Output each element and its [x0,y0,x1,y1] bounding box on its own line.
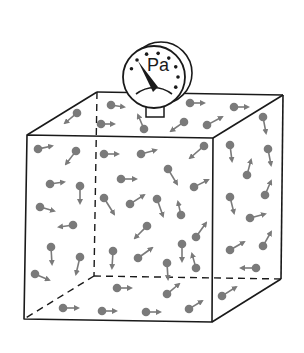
particle-dot [177,211,186,220]
gauge-unit-label: Pa [147,55,170,75]
gas-particle [264,145,273,165]
particle-dot [97,120,106,129]
gas-particle [190,180,208,191]
cube-edge-back-left [94,92,97,276]
velocity-arrow-icon [59,225,70,227]
particle-dot [34,145,43,154]
gas-particle [34,145,52,154]
cube-hidden-edges [24,92,281,319]
gauge-tick-dot [130,67,134,71]
particle-dot [164,165,173,174]
particle-dot [185,305,194,314]
velocity-arrow-icon [253,214,265,217]
gas-particle [218,287,236,300]
particle-dot [31,270,40,279]
particle-dot [143,222,152,231]
velocity-arrow-icon [190,148,202,158]
particle-dot [140,125,149,134]
gas-particle [261,181,271,199]
gas-particle [47,243,56,264]
particle-dot [47,243,56,252]
particle-dot [203,121,212,130]
particle-dot [134,254,143,263]
cube-edge-bottom-right-depth [212,279,281,322]
velocity-arrow-icon [66,153,74,164]
velocity-arrow-icon [170,172,177,184]
velocity-arrow-icon [192,254,195,265]
gas-particle [203,117,222,129]
particle-dot [190,183,199,192]
particle-dot [109,247,118,256]
particle-dot [117,175,126,184]
gas-particle [185,301,202,313]
velocity-arrow-icon [169,284,179,292]
particle-dot [163,259,172,268]
particle-dot [126,200,135,209]
velocity-arrow-icon [210,117,222,124]
particle-dot [98,307,107,316]
gas-particle [98,307,116,316]
velocity-arrow-icon [53,182,64,184]
cube-edge-back-bottom [94,276,281,279]
particle-dot [180,118,189,127]
gauge-tick-dot [174,85,178,89]
velocity-arrow-icon [114,105,124,107]
gas-particle [163,284,179,298]
velocity-arrow-icon [269,152,271,165]
velocity-arrow-icon [144,150,156,153]
particle-dot [69,221,78,230]
particle-dot [59,304,68,313]
gas-particle [31,270,49,280]
gas-particle [226,242,244,254]
velocity-arrow-icon [76,260,79,274]
cube-edge-top-left-depth [27,92,97,135]
velocity-arrow-icon [158,202,163,216]
particle-dot [226,141,235,150]
velocity-arrow-icon [41,146,52,148]
gas-particle [137,150,156,159]
particle-dot [226,246,235,255]
gas-particle [46,180,64,189]
gas-particle [113,284,131,293]
gas-pressure-diagram: Pa [0,0,304,353]
cube-front-face [24,135,213,322]
particle-dot [76,253,85,262]
particle-dot [153,195,162,204]
particle-dot [76,182,85,191]
gas-particle [226,141,235,161]
particle-dot [186,99,195,108]
gas-particle [36,203,54,212]
gas-particle [59,221,77,230]
gas-particle [163,259,172,279]
particle-dot [230,103,239,112]
particle-dot [137,150,146,159]
particle-dot [192,264,201,273]
gas-particle [192,223,206,241]
particle-dot [100,150,109,159]
velocity-arrow-icon [230,148,232,161]
gas-particle [153,195,163,216]
particle-dot [163,290,172,299]
velocity-arrow-icon [138,115,143,126]
particle-dot [259,113,268,122]
velocity-arrow-icon [167,266,168,279]
velocity-arrow-icon [264,120,266,133]
particle-dot [264,145,273,154]
gas-particle [241,264,260,273]
particle-dot [218,292,227,301]
particle-dot [178,240,187,249]
gas-particle [135,222,151,238]
cube-edge-top-right-depth [213,95,283,138]
velocity-arrow-icon [225,287,236,294]
cube-edge-back-top [97,92,283,95]
gauge-tick-dot [176,75,180,79]
gas-particle [259,232,271,250]
particle-dot [72,147,81,156]
particle-dot [200,142,209,151]
velocity-arrow-icon [133,195,144,202]
velocity-arrow-icon [178,202,180,212]
gas-particle [126,195,144,208]
gas-particle [100,194,114,214]
velocity-arrow-icon [140,248,152,256]
velocity-arrow-icon [106,201,114,214]
